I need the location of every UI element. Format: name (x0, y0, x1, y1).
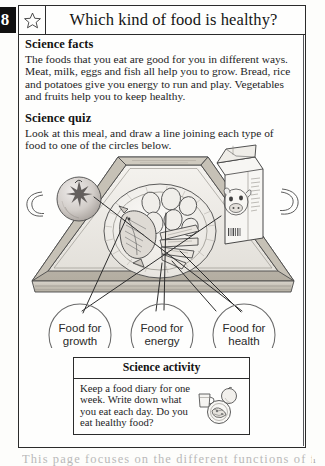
page-title: Which kind of food is healthy? (46, 10, 305, 30)
circle-health-line1: Food for (223, 322, 266, 334)
page-header: Which kind of food is healthy? (19, 6, 305, 35)
science-facts-paragraph: The foods that you eat are good for you … (25, 53, 295, 102)
science-activity-text: Keep a food diary for one week. Write do… (80, 383, 192, 429)
worksheet-page: Which kind of food is healthy? 8 Science… (0, 0, 325, 466)
circle-growth-line2: growth (63, 335, 98, 347)
science-activity-heading: Science activity (74, 358, 249, 379)
star-icon (19, 6, 46, 34)
bottom-cropped-caption: This page focuses on the different funct… (22, 452, 312, 466)
circle-health-line2: health (228, 335, 259, 347)
science-activity-body: Keep a food diary for one week. Write do… (74, 379, 249, 434)
science-activity-box: Science activity Keep a food diary for o… (73, 357, 250, 435)
science-quiz-heading: Science quiz (25, 111, 300, 126)
circle-energy-line1: Food for (141, 322, 184, 334)
meal-tray-illustration: Food for growth Food for energy Food for… (20, 143, 304, 348)
page-number: 1 (313, 457, 317, 465)
food-plate-cup-apple-icon (192, 383, 244, 425)
apple (57, 177, 101, 221)
circle-energy-line2: energy (144, 335, 179, 347)
chapter-number-tab: 8 (0, 7, 16, 33)
page-content: Science facts The foods that you eat are… (25, 37, 300, 152)
science-facts-heading: Science facts (25, 37, 300, 52)
circle-growth-line1: Food for (59, 322, 102, 334)
